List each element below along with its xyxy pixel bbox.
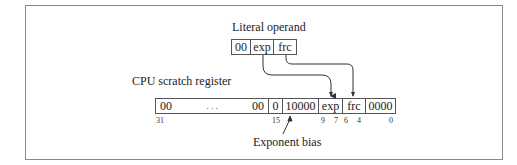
bias-arrowhead-icon xyxy=(288,116,292,121)
frc-arrowhead-icon xyxy=(351,92,355,97)
connector-arrows xyxy=(0,0,517,165)
exp-arrow xyxy=(263,55,331,96)
exp-arrowhead-icon xyxy=(329,92,333,97)
bias-pointer xyxy=(283,116,292,134)
